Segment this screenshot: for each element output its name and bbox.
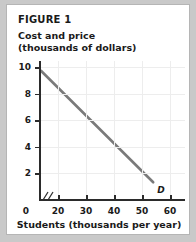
x-axis-tick	[58, 195, 60, 200]
x-axis-tick	[114, 195, 116, 200]
x-axis-tick-label: 20	[49, 206, 67, 216]
x-axis-tick-label: 60	[161, 206, 179, 216]
x-axis-tick	[86, 195, 88, 200]
y-axis-tick	[35, 173, 40, 175]
x-axis-tick-label: 0	[17, 206, 35, 216]
gridline-vertical	[86, 61, 87, 199]
gridline-vertical	[142, 61, 143, 199]
y-axis-tick	[35, 94, 40, 96]
gridline-horizontal	[39, 147, 185, 148]
x-axis-tick-label: 30	[77, 206, 95, 216]
gridline-horizontal	[39, 120, 185, 121]
y-axis-tick	[35, 147, 40, 149]
x-axis-line	[39, 199, 185, 201]
y-axis-tick-label: 8	[17, 89, 31, 99]
demand-curve-label: D	[157, 185, 164, 195]
figure-card: FIGURE 1 Cost and price (thousands of do…	[0, 0, 196, 242]
x-axis-tick-label: 50	[133, 206, 151, 216]
plot-area: D 24681002030405060	[7, 5, 190, 235]
x-axis-tick-label: 40	[105, 206, 123, 216]
x-axis-tick	[170, 195, 172, 200]
y-axis-tick-label: 4	[17, 142, 31, 152]
gridline-vertical	[114, 61, 115, 199]
y-axis-tick	[35, 120, 40, 122]
gridline-horizontal	[39, 94, 185, 95]
x-axis-title: Students (thousands per year)	[7, 219, 190, 230]
x-axis-tick	[142, 195, 144, 200]
gridline-vertical	[170, 61, 171, 199]
y-axis-tick-label: 2	[17, 168, 31, 178]
figure-inner-panel: FIGURE 1 Cost and price (thousands of do…	[6, 4, 190, 235]
gridline-horizontal	[39, 173, 185, 174]
y-axis-tick-label: 6	[17, 115, 31, 125]
gridline-horizontal	[39, 67, 185, 68]
y-axis-tick-label: 10	[17, 62, 31, 72]
gridline-vertical	[58, 61, 59, 199]
y-axis-tick	[35, 67, 40, 69]
y-axis-line	[39, 61, 41, 201]
